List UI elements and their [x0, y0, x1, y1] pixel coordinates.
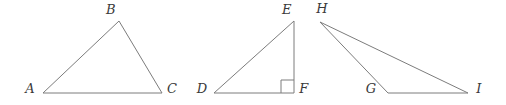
vertex-label-g: G [366, 82, 377, 95]
triangle-abc [43, 21, 162, 93]
vertex-label-c: C [167, 82, 177, 95]
vertex-label-a: A [25, 82, 35, 95]
right-angle-marker-f [281, 80, 294, 93]
vertex-label-e: E [282, 3, 292, 16]
triangle-hgi [320, 22, 468, 93]
vertex-label-h: H [316, 2, 328, 15]
vertex-label-f: F [299, 82, 308, 95]
geometry-figure: ABCDEFHGI [0, 0, 506, 105]
vertex-label-i: I [476, 82, 481, 95]
vertex-label-d: D [197, 82, 208, 95]
vertex-label-b: B [106, 3, 116, 16]
figure-canvas [0, 0, 506, 105]
triangle-def [214, 21, 294, 93]
